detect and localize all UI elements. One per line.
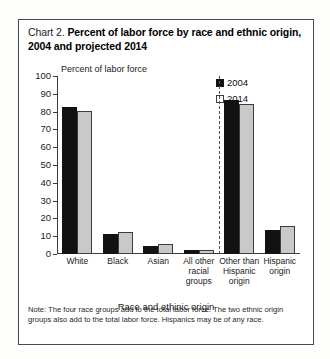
x-category-label: Asian — [138, 256, 179, 266]
x-category-label: Other than Hispanic origin — [219, 256, 260, 286]
bar-2004 — [224, 100, 239, 254]
y-tick-label: 20 — [40, 212, 51, 223]
bar-2014 — [239, 104, 254, 254]
plot-area: Percent of labor force 2004 2014 1009080… — [19, 64, 313, 278]
chart-figure-box: Chart 2. Percent of labor force by race … — [18, 19, 314, 345]
y-tick-label: 90 — [40, 88, 51, 99]
x-axis-category-labels: WhiteBlackAsianAll other racial groupsOt… — [57, 256, 300, 292]
bar-group — [103, 76, 133, 254]
chart-title-text: Percent of labor force by race and ethni… — [28, 26, 301, 52]
bar-group — [184, 76, 214, 254]
x-category-label: Hispanic origin — [260, 256, 301, 276]
x-category-label: All other racial groups — [179, 256, 220, 286]
bar-2004 — [143, 246, 158, 254]
chart-label: Chart 2. — [28, 26, 65, 38]
bar-2014 — [158, 244, 173, 254]
bar-2004 — [103, 234, 118, 254]
bar-2004 — [184, 250, 199, 254]
y-tick-label: 100 — [35, 70, 51, 81]
bar-group — [224, 76, 254, 254]
y-tick-label: 0 — [46, 248, 51, 259]
x-category-label: White — [57, 256, 98, 266]
bar-2014 — [77, 111, 92, 254]
y-tick-label: 40 — [40, 177, 51, 188]
bar-2004 — [62, 107, 77, 254]
y-tick-label: 30 — [40, 195, 51, 206]
y-tick-mark — [53, 254, 57, 255]
x-category-label: Black — [98, 256, 139, 266]
chart-axes: 1009080706050403020100 — [57, 76, 300, 254]
bar-group — [265, 76, 295, 254]
bar-2004 — [265, 230, 280, 254]
bar-group — [143, 76, 173, 254]
y-axis-caption: Percent of labor force — [61, 64, 147, 74]
chart-page: Chart 2. Percent of labor force by race … — [0, 0, 330, 359]
bar-2014 — [199, 250, 214, 254]
y-tick-label: 60 — [40, 141, 51, 152]
chart-footnote: Note: The four race groups add to the to… — [28, 305, 304, 325]
bar-group — [62, 76, 92, 254]
bars-layer — [57, 76, 300, 254]
y-tick-label: 10 — [40, 230, 51, 241]
bar-2014 — [280, 226, 295, 254]
y-tick-label: 70 — [40, 123, 51, 134]
chart-title: Chart 2. Percent of labor force by race … — [28, 26, 306, 53]
y-tick-label: 80 — [40, 106, 51, 117]
bar-2014 — [118, 232, 133, 254]
y-tick-label: 50 — [40, 159, 51, 170]
